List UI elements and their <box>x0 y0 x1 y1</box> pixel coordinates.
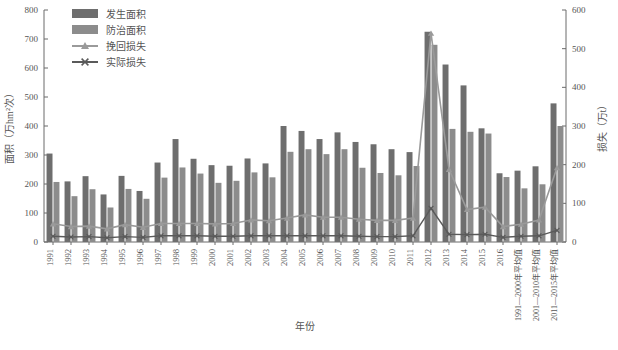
bar-control-area <box>504 177 510 242</box>
x-tick-label: 2007 <box>333 249 343 266</box>
x-tick-label: 2000 <box>207 249 217 266</box>
x-tick-label: 1998 <box>171 249 181 266</box>
x-tick-label: 2015 <box>477 249 487 266</box>
x-tick-label: 1991 <box>45 249 55 266</box>
bar-control-area <box>306 149 312 242</box>
bar-control-area <box>324 154 330 242</box>
bar-occurrence-area <box>101 194 107 242</box>
bar-control-area <box>180 167 186 242</box>
y-tick-label-left: 400 <box>25 121 39 131</box>
y-tick-label-left: 100 <box>25 208 39 218</box>
bar-control-area <box>270 177 276 242</box>
bar-occurrence-area <box>533 166 539 242</box>
bar-occurrence-area <box>245 158 251 242</box>
legend-label-1: 防治面积 <box>106 24 146 36</box>
x-tick-label: 1992 <box>63 249 73 266</box>
x-tick-label: 2008 <box>351 249 361 266</box>
bar-control-area <box>450 129 456 242</box>
chart-svg: 0100200300400500600700800010020030040050… <box>0 0 618 350</box>
y-tick-label-right: 400 <box>572 82 586 92</box>
y-tick-label-right: 500 <box>572 44 586 54</box>
bar-control-area <box>198 174 204 242</box>
bar-occurrence-area <box>461 85 467 242</box>
x-tick-label: 2003 <box>261 249 271 266</box>
y-tick-label-left: 600 <box>25 63 39 73</box>
legend-swatch-0 <box>72 9 98 18</box>
legend-label-3: 实际损失 <box>106 56 146 68</box>
bar-occurrence-area <box>47 154 53 242</box>
bar-occurrence-area <box>209 165 215 242</box>
x-tick-label: 2001 <box>225 249 235 266</box>
x-tick-label: 1994 <box>99 248 109 266</box>
bar-occurrence-area <box>389 149 395 242</box>
bar-control-area <box>126 189 132 242</box>
x-tick-label: 2011 <box>405 249 415 266</box>
bar-occurrence-area <box>299 131 305 242</box>
legend-label-0: 发生面积 <box>106 8 146 20</box>
x-tick-label: 1999 <box>189 249 199 266</box>
bar-occurrence-area <box>173 139 179 242</box>
bar-occurrence-area <box>155 163 161 242</box>
y-tick-label-right: 200 <box>572 160 586 170</box>
bar-occurrence-area <box>137 191 143 242</box>
bar-occurrence-area <box>317 139 323 242</box>
legend-swatch-1 <box>72 25 98 34</box>
bar-occurrence-area <box>407 152 413 242</box>
x-tick-label: 1991—2000年平均值 <box>513 249 523 321</box>
bar-control-area <box>468 132 474 242</box>
bar-control-area <box>252 172 258 242</box>
bar-occurrence-area <box>335 132 341 242</box>
y-tick-label-right: 600 <box>572 5 586 15</box>
bar-control-area <box>360 168 366 242</box>
bar-control-area <box>288 152 294 242</box>
x-tick-label: 1995 <box>117 249 127 266</box>
bar-control-area <box>396 175 402 242</box>
bar-control-area <box>234 181 240 242</box>
bar-occurrence-area <box>119 176 125 242</box>
x-tick-label: 2011—2015年平均值 <box>549 249 559 321</box>
y-tick-label-right: 300 <box>572 121 586 131</box>
bar-occurrence-area <box>83 176 89 242</box>
bar-control-area <box>378 173 384 242</box>
bar-occurrence-area <box>263 163 269 242</box>
bar-occurrence-area <box>353 142 359 242</box>
x-tick-label: 2009 <box>369 249 379 266</box>
x-tick-label: 2013 <box>441 249 451 266</box>
y-tick-label-left: 700 <box>25 34 39 44</box>
bar-occurrence-area <box>371 144 377 242</box>
bar-occurrence-area <box>515 171 521 242</box>
bar-control-area <box>540 184 546 242</box>
y-axis-title-right: 损失（万t） <box>596 100 608 153</box>
bar-occurrence-area <box>65 181 71 242</box>
x-tick-label: 1997 <box>153 249 163 266</box>
y-tick-label-left: 800 <box>25 5 39 15</box>
x-tick-label: 2010 <box>387 249 397 266</box>
chart-container: 0100200300400500600700800010020030040050… <box>0 0 618 350</box>
x-tick-label: 1996 <box>135 249 145 266</box>
x-tick-label: 2001—2010年平均值 <box>531 249 541 321</box>
y-tick-label-right: 100 <box>572 198 586 208</box>
bar-occurrence-area <box>497 173 503 242</box>
y-tick-label-left: 500 <box>25 92 39 102</box>
x-tick-label: 2012 <box>423 249 433 266</box>
x-tick-label: 2004 <box>279 248 289 266</box>
bar-occurrence-area <box>479 128 485 242</box>
bar-occurrence-area <box>227 166 233 242</box>
x-tick-label: 2002 <box>243 249 253 266</box>
x-tick-label: 2014 <box>459 248 469 266</box>
bar-control-area <box>54 182 60 242</box>
x-tick-label: 2006 <box>315 249 325 266</box>
y-tick-label-left: 200 <box>25 179 39 189</box>
bar-occurrence-area <box>191 159 197 242</box>
y-tick-label-left: 300 <box>25 150 39 160</box>
bar-control-area <box>90 189 96 242</box>
bar-control-area <box>522 188 528 242</box>
bar-control-area <box>216 183 222 242</box>
y-tick-label-left: 0 <box>34 237 39 247</box>
x-tick-label: 2016 <box>495 249 505 266</box>
x-axis-title: 年份 <box>295 320 315 332</box>
bar-control-area <box>558 126 564 242</box>
bar-control-area <box>342 149 348 242</box>
bar-control-area <box>486 134 492 242</box>
y-axis-title-left: 面积（万hm²次） <box>3 88 15 164</box>
